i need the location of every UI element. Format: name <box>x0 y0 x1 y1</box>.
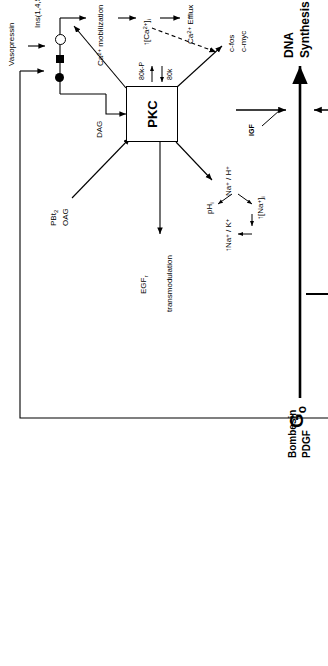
label-pbt2: PBt2 <box>50 210 59 226</box>
label-egfr-transmodulation: transmodulation <box>166 255 174 312</box>
label-dna: DNA <box>282 32 296 58</box>
figure-canvas: Bombesin PDGF PBt2 OAG DAG Vasopressin I… <box>0 0 328 666</box>
label-ca-mobilization: Ca2+ mobilization <box>96 4 105 66</box>
pkc-box: PKC <box>126 86 178 142</box>
pathway-diagram: Bombesin PDGF PBt2 OAG DAG Vasopressin I… <box>0 0 328 666</box>
receptor-filled-square-icon <box>56 55 64 63</box>
label-igf-upper: IGF <box>248 124 255 136</box>
label-ph-i: pHi <box>206 202 215 214</box>
receptor-open-circle-icon <box>55 34 66 45</box>
label-vasopressin: Vasopressin <box>8 23 16 66</box>
label-oag: OAG <box>62 208 70 226</box>
label-na-k-atpase: ↑Na+ / K+ <box>224 219 233 252</box>
label-ca-intracellular: ↑[Ca2+]i <box>142 19 152 46</box>
label-na-intracellular: ↑[Na+]i <box>256 196 266 220</box>
receptor-filled-circle-icon <box>55 73 64 82</box>
label-80k-p: 80k-P <box>138 62 145 80</box>
label-ca-efflux: Ca2+ Efflux <box>186 5 195 44</box>
label-egfr: EGFr <box>140 276 149 294</box>
label-ins145p3: Ins(1,4,5)P3 <box>34 0 43 28</box>
label-na-h-exchanger: Na+ / H+ <box>224 166 233 196</box>
label-80k: 80k <box>166 69 173 80</box>
label-pdgf: PDGF <box>302 430 313 458</box>
label-cmyc-pkc: c-myc <box>240 31 248 52</box>
label-synthesis: Synthesis <box>298 1 312 58</box>
label-dag: DAG <box>96 121 104 138</box>
label-g0: Go <box>286 406 309 428</box>
label-cfos-pkc: c-fos <box>228 35 236 52</box>
